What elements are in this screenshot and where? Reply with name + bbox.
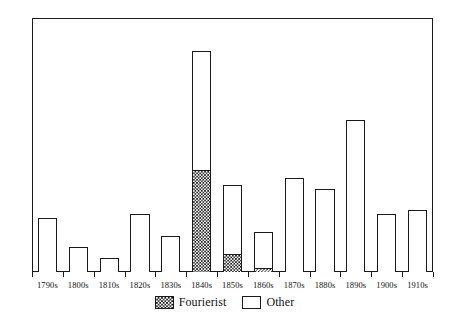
bar-group[interactable] xyxy=(408,18,427,272)
bar-segment-other[interactable] xyxy=(346,120,365,272)
y-axis: 010203040506070 xyxy=(0,0,32,290)
x-axis-tick xyxy=(433,272,434,277)
x-axis-tick xyxy=(186,272,187,277)
legend-label: Fourierist xyxy=(179,296,227,309)
bar-segment-other[interactable] xyxy=(408,210,427,272)
bar-segment-fourierist[interactable] xyxy=(254,268,273,272)
bar-segment-other[interactable] xyxy=(100,258,119,273)
bar-segment-other[interactable] xyxy=(130,214,149,272)
x-axis-tick xyxy=(371,272,372,277)
legend-item[interactable]: Fourierist xyxy=(155,296,227,309)
x-axis-tick xyxy=(94,272,95,277)
bar-segment-other[interactable] xyxy=(38,218,57,272)
x-axis-tick-label: 1840s xyxy=(191,280,212,290)
x-axis-tick-label: 1820s xyxy=(130,280,151,290)
bar-group[interactable] xyxy=(315,18,334,272)
x-axis-tick-label: 1890s xyxy=(345,280,366,290)
x-axis-tick xyxy=(402,272,403,277)
bar-segment-other[interactable] xyxy=(377,214,396,272)
x-axis-tick xyxy=(155,272,156,277)
bar-group[interactable] xyxy=(161,18,180,272)
bar-group[interactable] xyxy=(130,18,149,272)
bar-segment-fourierist[interactable] xyxy=(223,254,242,272)
x-axis-tick xyxy=(248,272,249,277)
bar-segment-other[interactable] xyxy=(254,232,273,272)
bar-group[interactable] xyxy=(346,18,365,272)
bar-group[interactable] xyxy=(38,18,57,272)
x-axis-tick xyxy=(217,272,218,277)
x-axis-tick-label: 1800s xyxy=(68,280,89,290)
x-axis-tick-label: 1880s xyxy=(315,280,336,290)
bar-chart: 010203040506070 1790s1800s1810s1820s1830… xyxy=(0,0,449,326)
legend-swatch-fourierist-icon xyxy=(155,296,174,309)
bar-segment-fourierist[interactable] xyxy=(192,170,211,272)
x-axis-tick xyxy=(279,272,280,277)
bar-group[interactable] xyxy=(100,18,119,272)
bar-group[interactable] xyxy=(254,18,273,272)
bars-layer xyxy=(32,18,433,272)
bar-segment-other[interactable] xyxy=(285,178,304,272)
x-axis-tick xyxy=(63,272,64,277)
bar-group[interactable] xyxy=(285,18,304,272)
bar-group[interactable] xyxy=(223,18,242,272)
x-axis-tick-label: 1910s xyxy=(407,280,428,290)
legend-item[interactable]: Other xyxy=(242,296,294,309)
x-axis-tick-label: 1810s xyxy=(99,280,120,290)
bar-segment-other[interactable] xyxy=(315,189,334,272)
bar-segment-other[interactable] xyxy=(69,247,88,272)
bar-group[interactable] xyxy=(69,18,88,272)
legend-label: Other xyxy=(266,296,294,309)
x-axis-tick-label: 1850s xyxy=(222,280,243,290)
bar-group[interactable] xyxy=(192,18,211,272)
x-axis-tick-label: 1900s xyxy=(376,280,397,290)
bar-segment-other[interactable] xyxy=(161,236,180,272)
legend-swatch-other-icon xyxy=(242,296,261,309)
x-axis-tick xyxy=(340,272,341,277)
x-axis-tick xyxy=(125,272,126,277)
x-axis-tick-label: 1860s xyxy=(253,280,274,290)
x-axis-tick xyxy=(32,272,33,277)
x-axis-tick-label: 1870s xyxy=(284,280,305,290)
x-axis-tick-label: 1790s xyxy=(37,280,58,290)
chart-legend: FourieristOther xyxy=(0,296,449,309)
x-axis-tick-label: 1830s xyxy=(160,280,181,290)
x-axis-tick xyxy=(310,272,311,277)
bar-group[interactable] xyxy=(377,18,396,272)
